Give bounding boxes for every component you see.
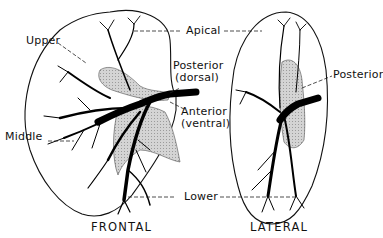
caption-frontal: FRONTAL: [91, 220, 152, 234]
label-posterior-lateral: Posterior: [333, 69, 383, 81]
label-posterior-dorsal-line2: (dorsal): [175, 72, 219, 84]
label-lower: Lower: [184, 191, 218, 203]
leader-upper: [58, 43, 86, 63]
frontal-anterior-segment: [114, 106, 181, 175]
label-middle: Middle: [5, 131, 43, 143]
label-apical: Apical: [186, 25, 221, 37]
label-upper: Upper: [26, 35, 60, 47]
caption-lateral: LATERAL: [250, 220, 308, 234]
label-anterior-ventral-line2: (ventral): [181, 118, 230, 130]
